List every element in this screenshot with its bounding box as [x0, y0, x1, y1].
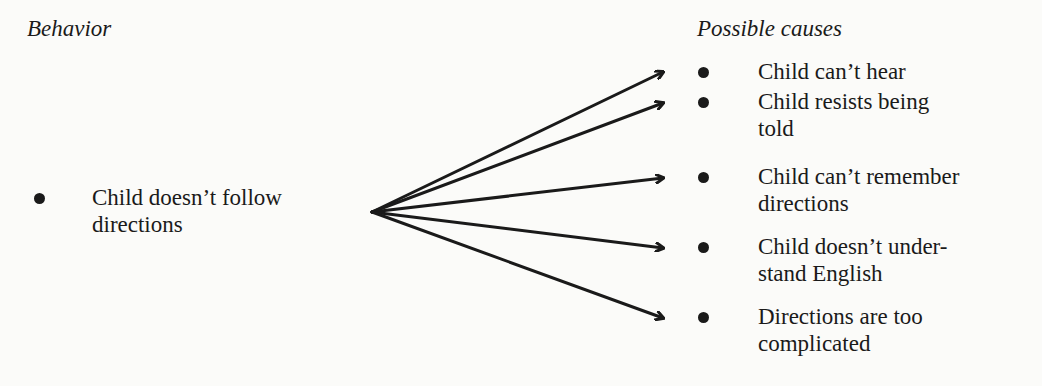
arrow-5: [372, 212, 663, 318]
cause-2-line1: Child resists being: [758, 88, 929, 115]
cause-bullet-1: [698, 67, 709, 78]
cause-3-line1: Child can’t remember: [758, 163, 959, 190]
arrow-4: [372, 212, 663, 248]
cause-3-line2: directions: [758, 190, 849, 217]
arrow-1: [372, 72, 663, 212]
cause-4-line1: Child doesn’t under-: [758, 233, 947, 260]
cause-1-line1: Child can’t hear: [758, 58, 906, 85]
possible-causes-heading: Possible causes: [697, 16, 842, 42]
cause-4-line2: stand English: [758, 260, 883, 287]
cause-bullet-5: [698, 312, 709, 323]
cause-5-line2: complicated: [758, 330, 870, 357]
cause-5-line1: Directions are too: [758, 303, 923, 330]
cause-bullet-4: [698, 242, 709, 253]
cause-bullet-3: [698, 172, 709, 183]
cause-bullet-2: [698, 97, 709, 108]
cause-2-line2: told: [758, 115, 794, 142]
